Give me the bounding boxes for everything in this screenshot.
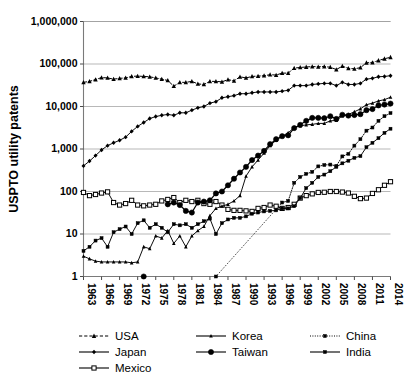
- y-tick-label: 1,000,000: [31, 15, 78, 27]
- datapoint-taiwan: [195, 200, 200, 205]
- datapoint-china: [365, 129, 368, 132]
- y-tick-label: 100: [60, 185, 78, 197]
- datapoint-india: [335, 165, 338, 168]
- series-line-china-riser: [216, 203, 282, 277]
- datapoint-india: [305, 187, 308, 190]
- datapoint-usa: [388, 55, 392, 59]
- datapoint-japan: [160, 113, 164, 117]
- datapoint-india: [251, 212, 254, 215]
- datapoint-china: [329, 163, 332, 166]
- datapoint-india: [154, 223, 157, 226]
- datapoint-mexico: [99, 191, 103, 195]
- datapoint-japan: [328, 81, 332, 85]
- y-tick-label: 10: [66, 227, 78, 239]
- datapoint-india: [220, 222, 223, 225]
- datapoint-taiwan: [207, 198, 212, 203]
- datapoint-india: [148, 226, 151, 229]
- datapoint-taiwan: [268, 142, 273, 147]
- datapoint-taiwan: [388, 101, 393, 106]
- datapoint-india: [329, 170, 332, 173]
- datapoint-china: [293, 181, 296, 184]
- x-tick-label: 1975: [158, 283, 169, 306]
- datapoint-japan: [250, 91, 254, 95]
- datapoint-taiwan: [261, 148, 266, 153]
- datapoint-taiwan: [189, 210, 194, 215]
- datapoint-india: [88, 245, 91, 248]
- datapoint-mexico: [370, 191, 374, 195]
- chart-container: 1101001,00010,000100,0001,000,000 196319…: [0, 0, 407, 377]
- datapoint-india: [323, 173, 326, 176]
- datapoint-taiwan: [298, 122, 303, 127]
- datapoint-taiwan: [165, 202, 170, 207]
- y-tick-label: 10,000: [45, 100, 77, 112]
- datapoint-china: [317, 165, 320, 168]
- y-tick-label: 1,000: [51, 142, 77, 154]
- datapoint-mexico: [166, 197, 170, 201]
- datapoint-usa: [238, 74, 242, 78]
- datapoint-japan: [214, 99, 218, 103]
- legend-item-india[interactable]: India: [310, 346, 372, 358]
- datapoint-india: [383, 131, 386, 134]
- datapoint-korea: [389, 95, 393, 99]
- datapoint-taiwan: [370, 106, 375, 111]
- datapoint-china: [323, 164, 326, 167]
- legend-item-taiwan[interactable]: Taiwan: [196, 346, 268, 358]
- datapoint-mexico: [244, 209, 248, 213]
- datapoint-mexico: [130, 198, 134, 202]
- datapoint-india: [341, 162, 344, 165]
- x-tick-label: 1999: [302, 283, 313, 306]
- datapoint-taiwan: [171, 200, 176, 205]
- datapoint-japan: [166, 112, 170, 116]
- datapoint-taiwan: [376, 103, 381, 108]
- datapoint-india: [299, 197, 302, 200]
- datapoint-usa: [292, 66, 296, 70]
- datapoint-mexico: [322, 190, 326, 194]
- datapoint-korea: [238, 194, 242, 198]
- datapoint-china: [389, 112, 392, 115]
- datapoint-japan: [226, 95, 230, 99]
- datapoint-mexico: [364, 196, 368, 200]
- datapoint-china: [371, 126, 374, 129]
- legend-item-usa[interactable]: USA: [79, 330, 139, 342]
- x-tick-label: 1993: [266, 283, 277, 306]
- datapoint-usa: [376, 58, 380, 62]
- legend-item-china[interactable]: China: [310, 330, 377, 342]
- datapoint-india: [106, 245, 109, 248]
- datapoint-mexico: [226, 207, 230, 211]
- datapoint-india: [190, 226, 193, 229]
- datapoint-japan: [142, 120, 146, 124]
- x-tick-label: 2008: [356, 283, 367, 306]
- series-taiwan: [141, 101, 393, 279]
- datapoint-mexico: [105, 190, 109, 194]
- datapoint-india: [202, 220, 205, 223]
- legend-marker-mexico: [92, 366, 96, 370]
- datapoint-india: [118, 228, 121, 231]
- datapoint-mexico: [340, 190, 344, 194]
- datapoint-india: [377, 137, 380, 140]
- datapoint-mexico: [81, 190, 85, 194]
- datapoint-taiwan: [364, 108, 369, 113]
- x-tick-label: 1963: [86, 283, 97, 306]
- datapoint-india: [263, 210, 266, 213]
- datapoint-india: [136, 222, 139, 225]
- datapoint-india: [239, 216, 242, 219]
- datapoint-japan: [202, 104, 206, 108]
- series-korea: [82, 95, 393, 264]
- datapoint-china: [305, 172, 308, 175]
- datapoint-india: [142, 219, 145, 222]
- legend-item-korea[interactable]: Korea: [196, 330, 263, 342]
- datapoint-india: [257, 211, 260, 214]
- x-axis-tick-labels: 1963196619691972197519781981198419871990…: [84, 277, 404, 306]
- datapoint-taiwan: [340, 112, 345, 117]
- datapoint-taiwan: [237, 170, 242, 175]
- datapoint-mexico: [304, 194, 308, 198]
- legend-item-japan[interactable]: Japan: [79, 346, 146, 358]
- datapoint-japan: [232, 93, 236, 97]
- datapoint-usa: [99, 75, 103, 79]
- legend-item-mexico[interactable]: Mexico: [79, 362, 151, 374]
- datapoint-taiwan: [249, 157, 254, 162]
- datapoint-mexico: [352, 194, 356, 198]
- datapoint-mexico: [358, 197, 362, 201]
- y-axis-tick-labels: 1101001,00010,000100,0001,000,000: [31, 15, 84, 282]
- datapoint-taiwan: [304, 118, 309, 123]
